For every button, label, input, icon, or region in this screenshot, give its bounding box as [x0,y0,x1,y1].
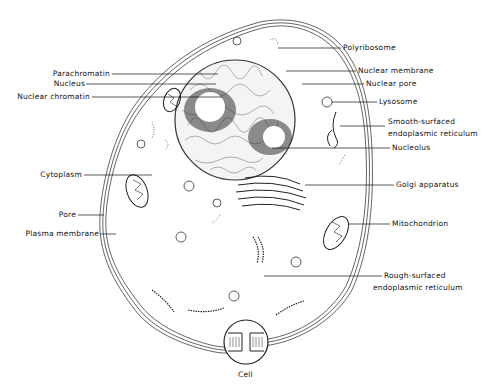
smooth-er [327,112,337,148]
label-smooth-er-line1: Smooth-surfaced [388,117,455,126]
cell-diagram [0,0,498,392]
label-nucleus: Nucleus [10,79,85,88]
label-nuclear-chromatin: Nuclear chromatin [0,92,90,101]
golgi-apparatus [236,176,306,210]
nucleus [175,60,295,180]
label-rough-er-line1: Rough-surfaced [384,271,446,280]
label-polyribosome: Polyribosome [343,43,396,52]
label-cytoplasm: Cytoplasm [10,170,82,179]
lysosome-vesicle [322,97,332,107]
label-mitochondrion: Mitochondrion [392,219,448,228]
label-plasma-membrane: Plasma membrane [0,229,99,238]
label-lysosome: Lysosome [379,97,417,106]
label-parachromatin: Parachromatin [10,69,110,78]
nucleolus-1 [195,92,225,122]
nucleolus-2 [263,126,285,148]
label-rough-er-line2: endoplasmic reticulum [373,283,463,292]
cell-junction-magnified [224,320,268,364]
label-nucleolus: Nucleolus [392,143,430,152]
label-nuclear-pore: Nuclear pore [366,79,417,88]
label-smooth-er-line2: endoplasmic reticulum [388,129,478,138]
label-golgi-apparatus: Golgi apparatus [396,180,459,189]
label-nuclear-membrane: Nuclear membrane [358,66,433,75]
caption-cell: Cell [238,370,253,379]
label-pore: Pore [10,210,76,219]
